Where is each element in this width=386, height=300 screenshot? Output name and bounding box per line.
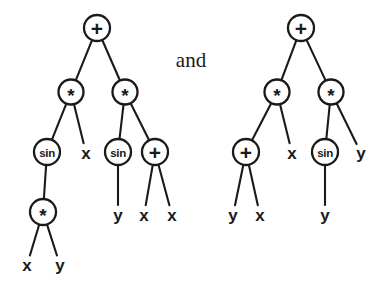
node-label: *	[67, 85, 75, 106]
node-label: +	[91, 17, 103, 40]
tree-edge	[281, 39, 297, 81]
terminal-node-y: y	[320, 206, 330, 225]
node-label: *	[121, 85, 129, 106]
tree-edge	[102, 39, 121, 81]
node-label: sin	[317, 147, 333, 159]
terminal-node-x: x	[22, 256, 32, 275]
operator-node-times: *	[113, 80, 138, 107]
terminal-label: x	[287, 144, 297, 163]
terminal-node-y: y	[55, 256, 65, 275]
node-label: +	[240, 141, 252, 164]
node-label: sin	[110, 147, 126, 159]
terminal-node-y: y	[228, 206, 238, 225]
terminal-node-x: x	[167, 206, 177, 225]
operator-node-times: *	[59, 80, 84, 107]
operator-node-sin: sin	[312, 139, 338, 165]
operator-node-sin: sin	[34, 139, 60, 165]
node-label: +	[295, 17, 307, 40]
tree-edge	[75, 39, 92, 81]
tree-edge	[130, 102, 149, 141]
tree-edge	[252, 102, 272, 141]
terminal-label: x	[22, 256, 32, 275]
tree-edge	[44, 164, 46, 200]
tree-edge	[51, 103, 66, 141]
tree-edge	[30, 223, 40, 255]
node-label: sin	[39, 147, 55, 159]
operator-node-plus: +	[233, 139, 259, 165]
terminal-label: y	[113, 206, 123, 225]
terminal-label: x	[167, 206, 177, 225]
tree-edge	[146, 164, 153, 205]
terminal-label: x	[139, 206, 149, 225]
tree-edge	[249, 164, 258, 206]
tree-edge	[119, 103, 123, 140]
node-label: *	[39, 205, 47, 226]
operator-node-sin: sin	[105, 139, 131, 165]
terminal-node-y: y	[356, 144, 366, 163]
terminal-label: y	[55, 256, 65, 275]
operator-node-plus: +	[142, 139, 168, 165]
tree-edge	[158, 164, 169, 206]
expression-trees-figure: +**sinxsin+*yxxxy+**+xsinyyxyand	[0, 0, 386, 300]
left-tree-nodes: +**sinxsin+*yxxxy	[22, 15, 177, 275]
terminal-label: y	[228, 206, 238, 225]
node-label: *	[327, 85, 335, 106]
terminal-node-x: x	[81, 144, 91, 163]
node-label: *	[273, 85, 281, 106]
tree-edge	[326, 103, 330, 140]
tree-edge	[235, 164, 244, 205]
conjunction-label: and	[176, 48, 207, 72]
operator-node-times: *	[319, 80, 344, 107]
terminal-node-y: y	[113, 206, 123, 225]
tree-edge	[47, 223, 57, 255]
terminal-label: x	[255, 206, 265, 225]
operator-node-times: *	[265, 80, 290, 107]
node-label: +	[149, 141, 161, 164]
operator-node-plus: +	[84, 15, 110, 41]
terminal-label: y	[356, 144, 366, 163]
expression-trees-canvas: +**sinxsin+*yxxxy+**+xsinyyxyand	[0, 0, 386, 300]
tree-edge	[280, 103, 290, 143]
terminal-label: x	[81, 144, 91, 163]
operator-node-times: *	[30, 199, 56, 226]
tree-edge	[336, 102, 357, 144]
terminal-label: y	[320, 206, 330, 225]
tree-edge	[74, 103, 84, 143]
terminal-node-x: x	[287, 144, 297, 163]
terminal-node-x: x	[255, 206, 265, 225]
tree-edge	[306, 39, 326, 82]
terminal-node-x: x	[139, 206, 149, 225]
right-tree-edges	[235, 39, 357, 205]
operator-node-plus: +	[288, 15, 314, 41]
